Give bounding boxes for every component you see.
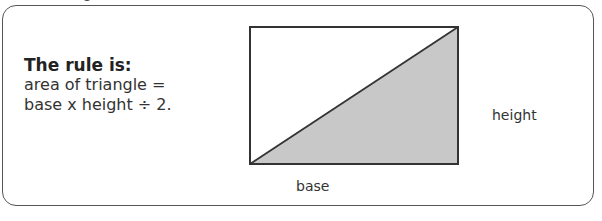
rule-text-block: The rule is: area of triangle = base x h…	[24, 55, 172, 115]
rule-line-1: area of triangle =	[24, 75, 172, 95]
rule-title: The rule is:	[24, 55, 172, 75]
cropped-heading-fragment	[82, 0, 92, 1]
rule-line-2: base x height ÷ 2.	[24, 95, 172, 115]
base-label: base	[296, 178, 329, 194]
triangle-diagram	[248, 25, 462, 167]
height-label: height	[492, 107, 537, 123]
